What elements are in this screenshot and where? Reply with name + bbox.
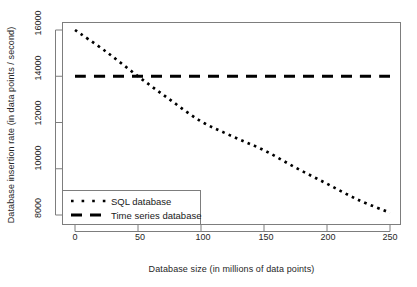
legend-key-dashed-icon [69,209,109,221]
x-axis-title-container: Database size (in millions of data point… [62,258,401,276]
chart-figure: Database insertion rate (in data points … [0,0,417,287]
data-series-layer [75,30,390,213]
series-line [75,30,390,213]
legend-label: SQL database [111,196,171,207]
legend-item: SQL database [69,194,171,208]
legend-item: Time series database [69,208,201,222]
plot-area [0,0,417,287]
legend: SQL database Time series database [62,190,201,225]
legend-label: Time series database [111,210,201,221]
legend-key-dotted-icon [69,195,109,207]
x-axis-title: Database size (in millions of data point… [149,264,315,274]
